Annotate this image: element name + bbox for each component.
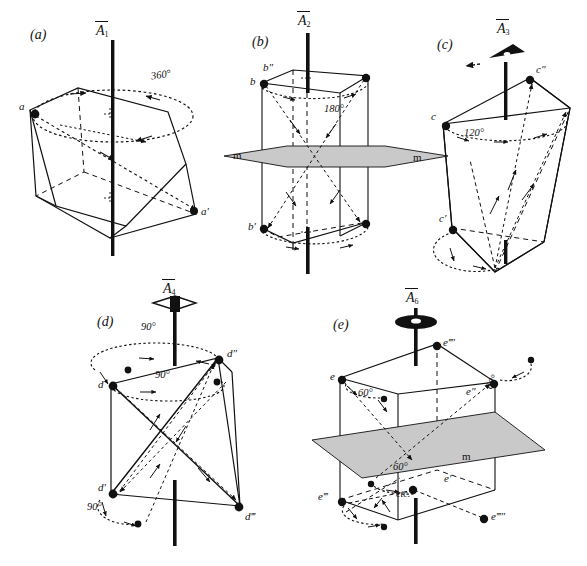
point-label-e-tprime: e‴ bbox=[318, 491, 328, 502]
rot-arrow-e6 bbox=[368, 525, 380, 527]
point-label-c-dprime: c″ bbox=[536, 64, 545, 75]
axis-sub-a: 1 bbox=[105, 30, 109, 39]
rotation-path-d-mid bbox=[114, 382, 224, 401]
axis-letter-e: A bbox=[406, 290, 415, 305]
point-label-d-prime: d′ bbox=[98, 482, 106, 493]
ray-arrow-e1 bbox=[374, 498, 382, 508]
ray-arrow-b1 bbox=[290, 120, 300, 134]
point-label-e: e bbox=[330, 371, 335, 382]
ray-arrow-d3 bbox=[150, 464, 160, 478]
point-d-prime bbox=[109, 490, 118, 499]
inversion-ray-d3 bbox=[146, 364, 214, 522]
overbar-a bbox=[95, 21, 108, 22]
ray-arrow-b3 bbox=[286, 192, 296, 206]
axis-label-b: A2 bbox=[298, 12, 311, 28]
rot-arrow-b4 bbox=[340, 245, 353, 248]
point-label-d-dprime: d″ bbox=[227, 348, 237, 359]
axis-sub-e: 6 bbox=[415, 297, 419, 306]
angle-label-d3: 90° bbox=[87, 502, 102, 513]
point-a-prime bbox=[190, 207, 198, 215]
mirror-label-e: m bbox=[462, 451, 471, 462]
rotation-path-d-top bbox=[91, 343, 216, 370]
inversion-ray-c2 bbox=[495, 112, 566, 268]
glyph-arrow-c bbox=[466, 64, 480, 66]
ray-arrow-c2 bbox=[522, 184, 534, 200]
bar-4-axis-glyph-core bbox=[170, 296, 180, 312]
inversion-ray-a bbox=[36, 116, 196, 210]
point-label-a: a bbox=[19, 101, 25, 112]
rot-arrow-e5 bbox=[348, 508, 357, 519]
panel-a bbox=[30, 40, 198, 256]
point-label-d: d bbox=[98, 379, 104, 390]
prism-c-hidden2 bbox=[452, 228, 544, 242]
axis-letter-a: A bbox=[96, 23, 105, 38]
panel-e-id: (e) bbox=[333, 318, 349, 332]
point-e-aux4 bbox=[381, 524, 387, 530]
ray-arrow-b2 bbox=[326, 124, 336, 138]
angle-label-e1: 60° bbox=[358, 388, 373, 399]
axis-a-bar bbox=[111, 40, 114, 256]
panel-b-id: (b) bbox=[252, 35, 268, 49]
rot-arrow-c4 bbox=[450, 248, 454, 261]
rotation-arrow-a2 bbox=[146, 96, 160, 100]
rot-arrow-d5 bbox=[102, 502, 106, 516]
overbar-b bbox=[297, 11, 310, 12]
panel-c-id: (c) bbox=[437, 38, 453, 52]
prism-c-hidden1 bbox=[495, 108, 570, 272]
rotation-path-d-bottom bbox=[98, 500, 140, 525]
axis-sub-c: 3 bbox=[506, 28, 510, 37]
point-label-e-dprime: e″ bbox=[466, 386, 475, 397]
axis-b-bar-top bbox=[306, 33, 310, 93]
prism-a-right-face bbox=[110, 164, 196, 238]
point-e-tprime bbox=[338, 498, 346, 506]
point-e-aux3 bbox=[368, 481, 374, 487]
point-label-d-tprime: d‴ bbox=[245, 511, 255, 522]
point-label-a-prime: a′ bbox=[201, 206, 209, 217]
mirror-label-b-left: m bbox=[233, 150, 242, 161]
mirror-label-b-right: m bbox=[413, 152, 422, 163]
rotation-path-c-bottom bbox=[434, 232, 500, 271]
overbar-d bbox=[162, 279, 175, 280]
point-d-aux1 bbox=[125, 367, 132, 374]
ray-arrow-d2 bbox=[176, 426, 186, 442]
panel-e bbox=[312, 308, 545, 544]
prism-b-top-face bbox=[262, 70, 368, 93]
angle-label-d2: 90° bbox=[155, 370, 170, 381]
prism-d-edge-right bbox=[218, 358, 240, 506]
point-label-e-pprime: e‴″ bbox=[491, 511, 505, 522]
point-e-aux1 bbox=[381, 396, 387, 402]
angle-label-b: 180° bbox=[324, 104, 344, 115]
point-b-4 bbox=[362, 220, 370, 228]
rot-arrow-c5 bbox=[473, 266, 486, 269]
axis-label-d: A4 bbox=[163, 280, 176, 296]
point-b-dprime bbox=[362, 74, 370, 82]
rot-arrow-d1 bbox=[139, 358, 154, 359]
rot-arrow-c3 bbox=[534, 134, 547, 138]
rot-arrow-d6 bbox=[124, 522, 136, 526]
inversion-ray-e4 bbox=[414, 490, 483, 518]
angle-label-e3: 60° bbox=[393, 462, 408, 473]
point-e-qprime bbox=[433, 342, 441, 350]
prism-c-edge2 bbox=[530, 78, 570, 242]
axis-sub-b: 2 bbox=[307, 20, 311, 29]
overbar-e bbox=[405, 288, 418, 289]
axis-letter-d: A bbox=[163, 281, 172, 296]
point-label-b: b bbox=[250, 76, 256, 87]
rot-arrow-e3 bbox=[512, 372, 524, 378]
ray-arrow-b4 bbox=[330, 190, 340, 204]
panel-d bbox=[91, 296, 243, 546]
point-c-dprime bbox=[526, 76, 534, 84]
overbar-c bbox=[496, 19, 509, 20]
point-c bbox=[442, 122, 450, 130]
point-d-dprime bbox=[215, 356, 224, 365]
ray-arrow-c1 bbox=[508, 170, 516, 190]
point-d-aux2 bbox=[214, 379, 221, 386]
point-label-b-dprime: b″ bbox=[263, 62, 273, 73]
axis-label-c: A3 bbox=[497, 20, 510, 36]
ray-arrow-c3 bbox=[490, 196, 499, 214]
point-e bbox=[338, 376, 346, 384]
axis-letter-c: A bbox=[497, 21, 506, 36]
bar-6-axis-glyph-hole bbox=[411, 318, 421, 323]
axis-label-a: A1 bbox=[96, 22, 109, 38]
panel-a-id: (a) bbox=[30, 28, 46, 42]
